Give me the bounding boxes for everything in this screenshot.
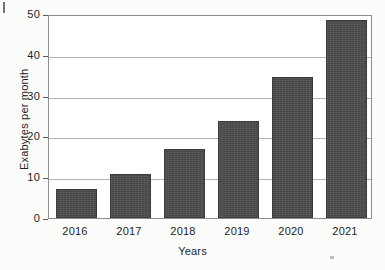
bar [164, 149, 205, 218]
y-axis-tick-label: 30 [10, 90, 40, 102]
x-axis-tick-label: 2020 [261, 225, 321, 237]
gridline [49, 138, 371, 139]
chart-page: Exabytes per month 01020304050 201620172… [0, 0, 385, 270]
bar [218, 121, 259, 218]
x-axis-tick-label: 2021 [315, 225, 375, 237]
gridline [49, 98, 371, 99]
bar [56, 189, 97, 218]
plot-area [48, 15, 372, 219]
x-axis-tick-label: 2018 [153, 225, 213, 237]
bar [272, 77, 313, 218]
y-axis-tick-label: 40 [10, 49, 40, 61]
gridline [49, 179, 371, 180]
y-axis-tick-label: 10 [10, 171, 40, 183]
y-axis-title: Exabytes per month [18, 69, 30, 170]
y-axis-tick-label: 50 [10, 8, 40, 20]
x-axis-tick-label: 2017 [99, 225, 159, 237]
y-axis-tick-label: 0 [10, 212, 40, 224]
bar [110, 174, 151, 218]
bar [326, 20, 367, 218]
gridline [49, 57, 371, 58]
y-axis-tick-mark [43, 219, 48, 220]
y-axis-tick-label: 20 [10, 130, 40, 142]
x-axis-tick-label: 2019 [207, 225, 267, 237]
scan-artifact-mark [3, 2, 5, 13]
x-axis-tick-label: 2016 [45, 225, 105, 237]
x-axis-title: Years [0, 245, 385, 257]
